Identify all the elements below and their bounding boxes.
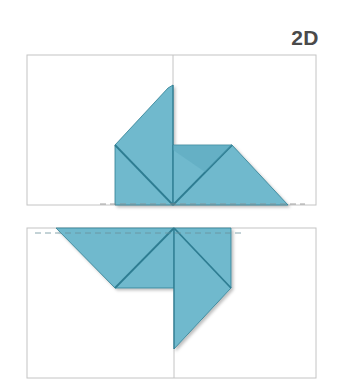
bottom-left-flap	[56, 228, 174, 288]
top-left-flap	[115, 85, 173, 205]
origami-diagram	[0, 0, 341, 387]
bottom-panel	[27, 228, 316, 378]
bottom-paper	[56, 228, 231, 349]
top-panel	[27, 55, 316, 205]
bottom-right-flap	[174, 228, 231, 349]
